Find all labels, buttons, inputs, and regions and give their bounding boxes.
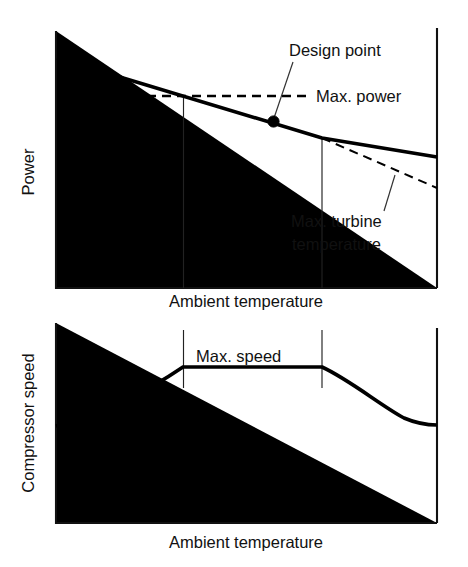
max-speed-label: Max. speed [196, 347, 281, 365]
max-turbine-temperature-label-line1: Max. turbine [291, 212, 382, 230]
compressor-panel-y-axis-title: Compressor speed [19, 353, 37, 492]
power-panel: Design point Max. power Max. turbine tem… [19, 28, 437, 310]
max-turbine-temperature-label-line2: temperature [292, 235, 381, 253]
design-point-label: Design point [289, 41, 381, 59]
two-panel-gas-turbine-performance-figure: Design point Max. power Max. turbine tem… [0, 0, 468, 567]
design-point-leader-line [274, 62, 293, 118]
max-power-label: Max. power [316, 87, 402, 105]
figure-container: Design point Max. power Max. turbine tem… [0, 0, 468, 567]
design-point-marker [268, 116, 279, 127]
compressor-panel-x-axis-title: Ambient temperature [169, 533, 323, 551]
max-turbine-temperature-leader-line [384, 175, 395, 211]
compressor-speed-panel: Max. speed Compressor speed Ambient temp… [19, 323, 437, 551]
power-panel-y-axis-title: Power [19, 148, 37, 195]
power-panel-x-axis-title: Ambient temperature [169, 292, 323, 310]
unlimited-turbine-temperature-dashed-curve [322, 138, 437, 188]
